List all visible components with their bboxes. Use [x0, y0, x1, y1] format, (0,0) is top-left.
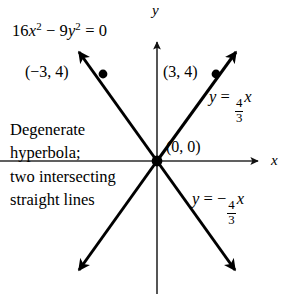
neg-eq-var-y: y: [192, 189, 199, 208]
pos-eq-var-y: y: [209, 87, 216, 106]
pos-eq-fraction: 4 3: [235, 97, 243, 124]
description-line-3: two intersecting: [10, 165, 116, 188]
equation-equals-zero: = 0: [85, 21, 107, 40]
description-line-2: hyperbola;: [10, 141, 116, 164]
description-line-4: straight lines: [10, 188, 116, 211]
description-block: Degenerate hyperbola; two intersecting s…: [10, 118, 116, 212]
pos-eq-var-x: x: [244, 87, 251, 106]
point-dot-neg3-4: [99, 70, 108, 79]
point-label-neg3-4: (−3, 4): [25, 63, 69, 80]
origin-label: (0, 0): [166, 138, 201, 155]
equation-minus-sign: −: [46, 21, 55, 40]
line-equation-positive-slope: y = 4 3 x: [209, 88, 252, 125]
pos-eq-denominator: 3: [235, 111, 243, 125]
y-axis-label: y: [152, 2, 159, 18]
equation-coef-y: 9: [60, 21, 68, 40]
x-axis-label: x: [271, 152, 278, 168]
equation-coef-x: 16: [12, 21, 29, 40]
degenerate-hyperbola-figure: 16x2 − 9y2 = 0 y x (−3, 4) (3, 4) (0, 0)…: [0, 0, 293, 294]
line-equation-negative-slope: y = − 4 3 x: [192, 190, 244, 227]
point-dot-3-4: [212, 70, 221, 79]
equation-exp-x: 2: [36, 20, 42, 32]
neg-eq-denominator: 3: [227, 213, 235, 227]
neg-eq-var-x: x: [237, 189, 244, 208]
equation-exp-y: 2: [75, 20, 81, 32]
pos-eq-numerator: 4: [235, 97, 243, 110]
neg-eq-fraction: 4 3: [227, 199, 235, 226]
neg-eq-minus-sign: −: [217, 189, 226, 208]
conic-equation-label: 16x2 − 9y2 = 0: [12, 22, 107, 40]
point-label-3-4: (3, 4): [163, 63, 198, 80]
neg-eq-numerator: 4: [227, 199, 235, 212]
description-line-1: Degenerate: [10, 118, 116, 141]
pos-eq-equals: =: [220, 87, 229, 106]
neg-eq-equals: =: [203, 189, 212, 208]
origin-dot: [152, 156, 163, 167]
